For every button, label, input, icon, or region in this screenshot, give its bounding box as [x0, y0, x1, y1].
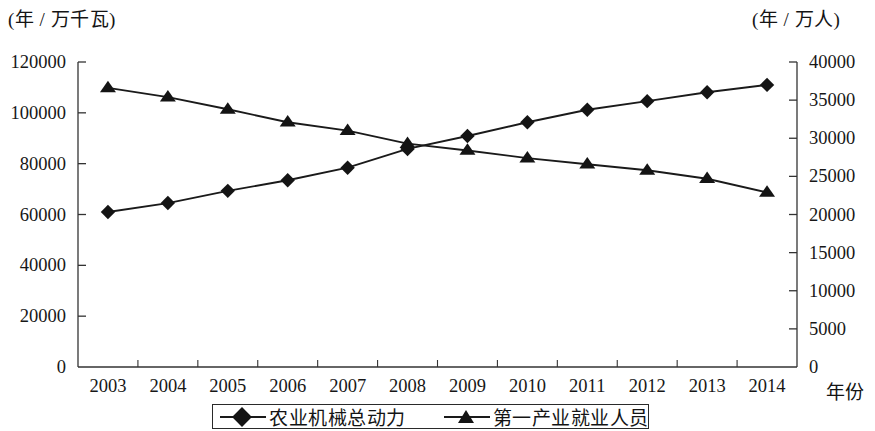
data-point-triangle: [340, 123, 356, 134]
data-point-diamond: [221, 184, 235, 198]
diamond-marker-icon: [220, 408, 266, 426]
agricultural-machinery-power-line: [108, 85, 767, 212]
right-axis-tick-label: 20000: [809, 206, 855, 225]
right-axis-tick-label: 15000: [809, 244, 855, 263]
data-point-diamond: [700, 85, 714, 99]
legend-item-primary-industry-employment: 第一产业就业人员: [444, 405, 649, 428]
left-axis-tick-label: 120000: [0, 53, 66, 72]
x-axis-tick-label: 2004: [138, 377, 198, 396]
x-axis-tick-label: 2009: [437, 377, 497, 396]
data-point-triangle: [280, 115, 296, 127]
right-axis-unit-label: (年 / 万人): [752, 4, 840, 31]
right-axis-tick-label: 30000: [809, 129, 855, 148]
data-point-diamond: [281, 173, 295, 187]
legend: 农业机械总动力 第一产业就业人员: [212, 404, 649, 429]
data-point-triangle: [100, 81, 116, 93]
right-axis-tick-label: 25000: [809, 167, 855, 186]
left-axis-tick-label: 20000: [0, 307, 66, 326]
data-point-diamond: [340, 161, 354, 175]
data-point-triangle: [400, 136, 416, 148]
x-axis-tick-label: 2014: [737, 377, 797, 396]
data-point-triangle: [699, 172, 715, 184]
right-axis-tick-label: 40000: [809, 53, 855, 72]
x-axis-tick-label: 2008: [378, 377, 438, 396]
triangle-marker-icon: [444, 408, 490, 426]
left-axis-unit-label: (年 / 万千瓦): [8, 4, 116, 31]
x-axis-tick-label: 2007: [318, 377, 378, 396]
left-axis-tick-label: 40000: [0, 256, 66, 275]
data-series-layer: [100, 78, 775, 219]
data-point-triangle: [759, 185, 775, 197]
axis-lines: [78, 62, 797, 367]
left-axis-tick-label: 60000: [0, 206, 66, 225]
x-axis-tick-label: 2003: [78, 377, 138, 396]
data-point-diamond: [460, 129, 474, 143]
right-axis-tick-label: 5000: [809, 320, 846, 339]
x-axis-tick-label: 2006: [258, 377, 318, 396]
x-axis-tick-label: 2005: [198, 377, 258, 396]
chart-container: (年 / 万千瓦) (年 / 万人) 120000100000800006000…: [0, 0, 875, 431]
data-point-triangle: [639, 163, 655, 175]
x-axis-tick-label: 2013: [677, 377, 737, 396]
left-axis-tick-label: 100000: [0, 104, 66, 123]
right-axis-tick-label: 35000: [809, 91, 855, 110]
left-axis-tick-label: 0: [0, 358, 66, 377]
x-axis-name-label: 年份: [826, 377, 864, 404]
plot-area: [0, 0, 875, 431]
data-point-diamond: [101, 205, 115, 219]
legend-label-1: 农业机械总动力: [269, 403, 406, 430]
data-point-diamond: [640, 94, 654, 108]
x-axis-tick-label: 2011: [557, 377, 617, 396]
data-point-diamond: [400, 142, 414, 156]
right-axis-tick-label: 10000: [809, 282, 855, 301]
data-point-triangle: [459, 143, 475, 155]
legend-label-2: 第一产业就业人员: [493, 403, 649, 430]
x-axis-tick-label: 2010: [497, 377, 557, 396]
data-point-diamond: [760, 78, 774, 92]
data-point-diamond: [161, 196, 175, 210]
data-point-triangle: [579, 157, 595, 169]
data-point-triangle: [519, 151, 535, 163]
data-point-diamond: [520, 115, 534, 129]
data-point-triangle: [160, 90, 176, 102]
x-axis-tick-label: 2012: [617, 377, 677, 396]
left-axis-tick-label: 80000: [0, 155, 66, 174]
data-point-diamond: [580, 103, 594, 117]
data-point-triangle: [220, 102, 236, 114]
right-axis-tick-label: 0: [809, 358, 818, 377]
legend-item-agricultural-machinery: 农业机械总动力: [220, 405, 406, 428]
primary-industry-employment-line: [108, 88, 767, 192]
